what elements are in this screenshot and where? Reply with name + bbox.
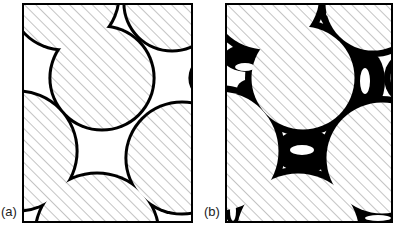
panel-label-b: (b) [204, 204, 220, 219]
residual-pore [235, 63, 255, 71]
panel-label-a: (a) [1, 204, 17, 219]
residual-pore [360, 68, 370, 94]
panel-a [22, 3, 193, 223]
panel-b [225, 3, 393, 223]
particle [51, 27, 152, 128]
particle [252, 27, 355, 130]
residual-pore [365, 215, 391, 221]
residual-pore [290, 145, 314, 155]
